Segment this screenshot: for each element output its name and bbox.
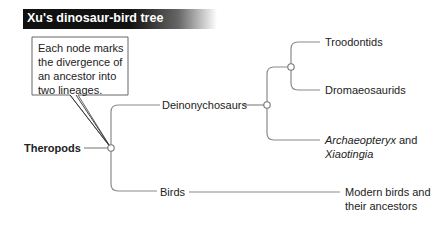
callout-line: Each node marks: [38, 41, 128, 55]
label-modern-birds: Modern birds and their ancestors: [345, 185, 431, 213]
label-birds: Birds: [160, 185, 185, 199]
label-and: and: [396, 134, 417, 146]
callout-text: Each node marks the divergence of an anc…: [38, 41, 128, 97]
deinonychosaur-node: [264, 102, 270, 108]
label-archaeopteryx-xiaotingia: Archaeopteryx and Xiaotingia: [325, 133, 417, 161]
label-troodontids: Troodontids: [325, 35, 383, 49]
label-theropods: Theropods: [24, 141, 81, 155]
label-dromaeosaurids: Dromaeosaurids: [325, 83, 406, 97]
theropod-node: [108, 145, 114, 151]
label-xiaotingia: Xiaotingia: [325, 148, 373, 160]
label-deinonychosaurs: Deinonychosaurs: [162, 98, 247, 112]
root-split-line: [111, 105, 160, 191]
callout-line: two lineages.: [38, 83, 128, 97]
troodontid-dromaeosaurid-node: [288, 64, 294, 70]
label-modern-birds-line2: their ancestors: [345, 200, 417, 212]
callout-line: an ancestor into: [38, 69, 128, 83]
troodontid-split-line: [291, 42, 320, 90]
deinonychosaur-split-line: [267, 67, 320, 140]
label-archaeopteryx: Archaeopteryx: [325, 134, 396, 146]
label-modern-birds-line1: Modern birds and: [345, 186, 431, 198]
callout-line: the divergence of: [38, 55, 128, 69]
